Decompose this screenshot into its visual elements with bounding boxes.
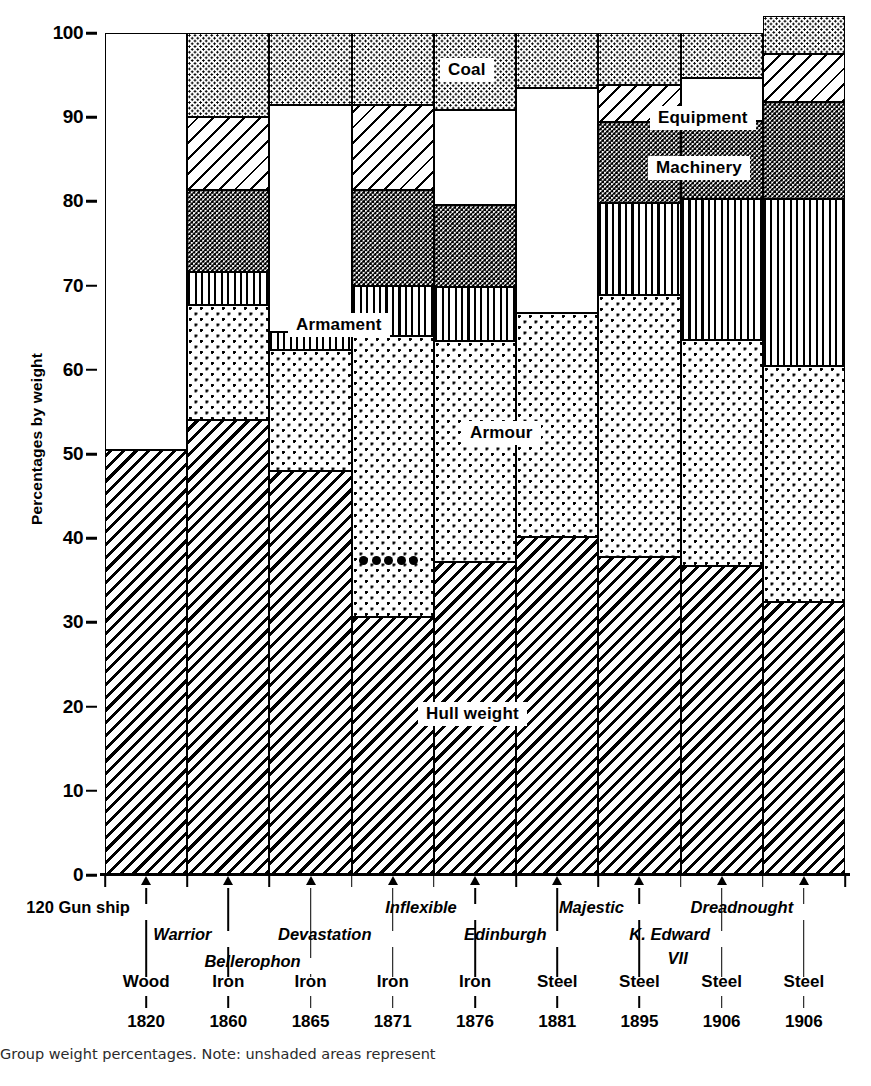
bar-warrior[interactable]: [187, 33, 269, 875]
segment-coal: [763, 16, 845, 54]
ship-name-7: K. Edward: [629, 925, 710, 944]
ship-name-8: Dreadnought: [691, 898, 794, 917]
segment-armour: [763, 366, 845, 602]
segment-armament: [187, 272, 269, 305]
y-tick-label-100: 100: [53, 22, 83, 44]
ship-material-8: Steel: [784, 972, 825, 992]
segment-equipment: [763, 54, 845, 102]
segment-machinery: [187, 190, 269, 272]
x-minor-tick-8: [762, 876, 764, 887]
ship-material-2: Iron: [294, 972, 326, 992]
leader-line-year-3: [392, 996, 394, 1008]
ship-year-7: 1906: [703, 1012, 741, 1032]
ship-year-0: 1820: [127, 1012, 165, 1032]
y-tick-label-90: 90: [63, 106, 83, 128]
segment-armour: [434, 341, 516, 562]
bar-edinburgh[interactable]: [516, 33, 598, 875]
y-tick-mark-60: [86, 369, 97, 372]
segment-unshaded: [516, 88, 598, 313]
segment-label-armour: Armour: [462, 421, 541, 445]
leader-line-material-8: [803, 920, 805, 977]
ship-year-5: 1881: [538, 1012, 576, 1032]
ship-year-4: 1876: [456, 1012, 494, 1032]
ship-name-0: 120 Gun ship: [26, 898, 130, 917]
y-tick-label-0: 0: [73, 864, 83, 886]
segment-armament: [598, 203, 680, 295]
figure-caption: Group weight percentages. Note: unshaded…: [0, 1046, 871, 1062]
y-tick-label-60: 60: [63, 359, 83, 381]
ship-name-4: Inflexible: [385, 898, 457, 917]
segment-coal: [516, 33, 598, 88]
segment-armour: [187, 305, 269, 420]
leader-line-name-1: [228, 888, 230, 931]
leader-line-year-4: [474, 996, 476, 1008]
y-tick-mark-100: [86, 32, 97, 35]
x-minor-tick-7: [680, 876, 682, 887]
ship-name-6: Majestic: [559, 898, 624, 917]
y-tick-label-50: 50: [63, 443, 83, 465]
leader-line-year-6: [639, 996, 641, 1008]
segment-hull-weight: [269, 471, 351, 875]
leader-line-name-0: [145, 888, 147, 904]
x-minor-tick-end: [844, 876, 846, 887]
segment-unshaded: [434, 110, 516, 205]
x-minor-tick-5: [515, 876, 517, 887]
ship-material-4: Iron: [459, 972, 491, 992]
y-tick-label-10: 10: [63, 780, 83, 802]
bar-bellerophon[interactable]: [269, 33, 351, 875]
x-tick-arrow-5: [552, 876, 562, 885]
leader-line-year-2: [310, 996, 312, 1008]
y-axis-title: Percentages by weight: [28, 324, 46, 554]
bar-dreadnought[interactable]: [763, 33, 845, 875]
x-tick-arrow-8: [799, 876, 809, 885]
ship-material-1: Iron: [212, 972, 244, 992]
leader-line-year-7: [721, 996, 723, 1008]
ship-name-5: Edinburgh: [464, 925, 546, 944]
segment-equipment: [352, 105, 434, 189]
ship-material-7: Steel: [701, 972, 742, 992]
ship-year-2: 1865: [292, 1012, 330, 1032]
x-tick-arrow-6: [634, 876, 644, 885]
segment-unshaded: [105, 33, 187, 450]
y-tick-mark-70: [86, 284, 97, 287]
bar-inflexible[interactable]: [434, 33, 516, 875]
leader-line-year-8: [803, 996, 805, 1008]
y-tick-mark-80: [86, 200, 97, 203]
x-tick-arrow-3: [388, 876, 398, 885]
ship-name-2: Bellerophon: [204, 952, 300, 971]
y-tick-mark-90: [86, 116, 97, 119]
x-tick-arrow-1: [223, 876, 233, 885]
x-tick-arrow-7: [717, 876, 727, 885]
leader-line-name-5: [556, 888, 558, 931]
x-minor-tick-4: [433, 876, 435, 887]
ship-year-8: 1906: [785, 1012, 823, 1032]
bar-devastation[interactable]: [352, 33, 434, 875]
bar-120-gun-ship[interactable]: [105, 33, 187, 875]
segment-hull-weight: [187, 420, 269, 875]
ship-name-7-line2: VII: [668, 949, 688, 968]
segment-coal: [598, 33, 680, 85]
segment-armament: [434, 287, 516, 341]
ship-material-6: Steel: [619, 972, 660, 992]
segment-equipment: [187, 117, 269, 190]
ship-material-3: Iron: [377, 972, 409, 992]
segment-hull-weight: [598, 557, 680, 875]
x-minor-tick-1: [186, 876, 188, 887]
leader-line-material-0: [145, 920, 147, 977]
y-tick-label-20: 20: [63, 696, 83, 718]
y-axis: Percentages by weight 100908070605040302…: [0, 0, 105, 1086]
segment-hull-weight: [516, 537, 598, 875]
ship-name-3: Devastation: [278, 925, 372, 944]
ship-year-3: 1871: [374, 1012, 412, 1032]
segment-label-armament: Armament: [288, 313, 390, 337]
segment-label-machinery: Machinery: [648, 156, 750, 180]
segment-label-hull: Hull weight: [418, 702, 527, 726]
x-minor-tick-0: [104, 876, 106, 887]
leader-line-name-8: [803, 888, 805, 904]
x-tick-arrow-4: [470, 876, 480, 885]
y-tick-label-80: 80: [63, 190, 83, 212]
y-tick-mark-40: [86, 537, 97, 540]
segment-machinery: [352, 190, 434, 286]
leader-line-year-0: [145, 996, 147, 1008]
y-tick-mark-20: [86, 705, 97, 708]
